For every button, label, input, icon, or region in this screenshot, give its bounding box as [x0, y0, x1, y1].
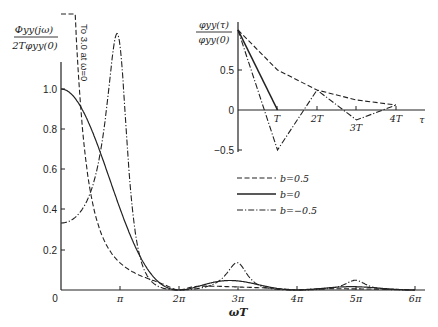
y-tick-1.0: 1.0	[43, 84, 57, 95]
y-tick-0.8: 0.8	[43, 124, 57, 135]
inset-x-tick-4T: 4T	[389, 113, 403, 124]
inset-curve-b=0.5	[238, 30, 396, 105]
annotation-to-3: To 3.0 at ω=0	[79, 24, 90, 81]
chart-figure: 1.0 0.8 0.6 0.4 0.2 0 π 2π 3π 4π 5π 6π ω…	[0, 0, 438, 327]
y-tick-0.6: 0.6	[43, 164, 57, 175]
legend-label-b05: b=0.5	[280, 173, 309, 184]
x-tick-5pi: 5π	[350, 293, 363, 304]
legend: b=0.5 b=0 b=−0.5	[237, 173, 317, 216]
x-tick-2pi: 2π	[172, 293, 186, 304]
legend-label-bm05: b=−0.5	[280, 205, 317, 216]
inset-y-tick-0.5: 0.5	[220, 65, 234, 76]
x-tick-4pi: 4π	[290, 293, 304, 304]
x-tick-3pi: 3π	[232, 293, 245, 304]
x-tick-0: 0	[52, 293, 58, 304]
inset-curve-b=0	[238, 30, 278, 110]
main-x-label: ωT	[229, 306, 248, 319]
main-y-ticks: 1.0 0.8 0.6 0.4 0.2 0	[43, 84, 65, 304]
inset-x-tick-3T: 3T	[350, 122, 363, 133]
x-tick-6pi: 6π	[409, 293, 422, 304]
inset-x-tick-2T: 2T	[310, 113, 324, 124]
y-tick-0.4: 0.4	[43, 204, 57, 215]
inset-y-label: φyy(τ) φyy(0)	[196, 19, 232, 45]
inset-y-tick-neg0.5: −0.5	[214, 145, 234, 156]
main-y-label-num: Φyy(jω)	[15, 24, 54, 35]
inset-y-tick-0: 0	[228, 105, 234, 116]
inset-y-label-den: φyy(0)	[199, 34, 230, 45]
main-y-label-den: 2Tφyy(0)	[11, 40, 58, 51]
inset-x-tick-T: T	[274, 113, 281, 124]
main-y-label: Φyy(jω) 2Tφyy(0)	[11, 24, 58, 51]
y-tick-0.2: 0.2	[43, 245, 57, 256]
x-tick-pi: π	[116, 293, 124, 304]
inset-x-label: τ	[419, 114, 425, 125]
inset-curves	[238, 30, 396, 150]
inset-y-label-num: φyy(τ)	[199, 19, 229, 30]
legend-label-b0: b=0	[280, 189, 300, 200]
